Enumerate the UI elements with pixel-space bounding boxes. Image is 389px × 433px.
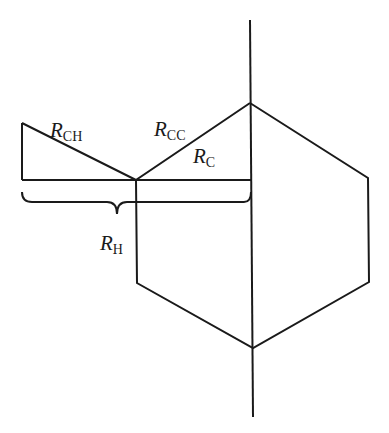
vertical-axis-line xyxy=(250,20,253,417)
label-r-h: RH xyxy=(100,233,123,254)
diagram-canvas: RCH RCC RC RH xyxy=(0,0,389,433)
label-r-c: RC xyxy=(193,146,215,167)
diagram-lines xyxy=(0,0,389,433)
label-r-ch: RCH xyxy=(50,120,82,141)
label-r-cc: RCC xyxy=(154,119,186,140)
